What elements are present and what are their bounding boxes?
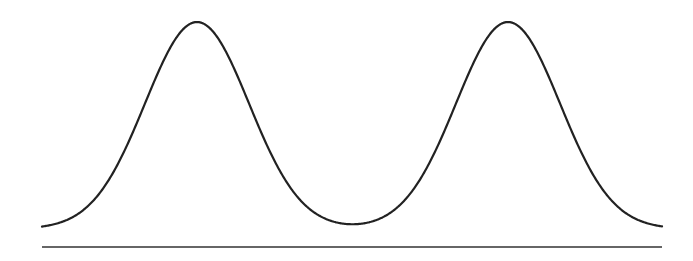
bimodal-curve <box>42 22 662 227</box>
bimodal-distribution-diagram <box>0 0 693 261</box>
